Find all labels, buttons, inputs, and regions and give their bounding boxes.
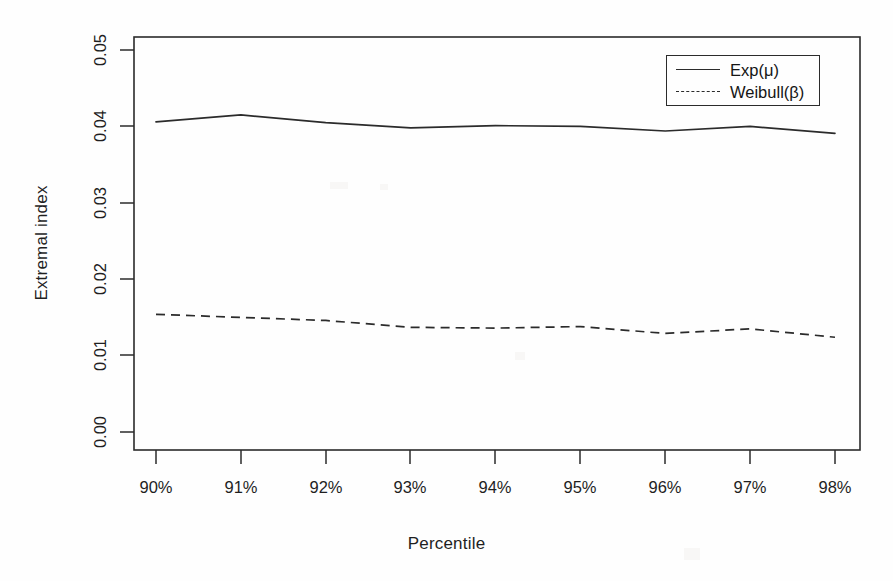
legend-key-solid-icon (676, 64, 722, 76)
y-axis-ticks (120, 50, 134, 432)
series-line-exp (156, 115, 835, 133)
series-line-weibull (156, 314, 835, 337)
legend-key-dashed-icon (676, 86, 722, 98)
x-axis-ticks (156, 450, 835, 464)
legend-entry-weibull: Weibull(β) (667, 81, 819, 103)
chart-figure: Extremal index Percentile 0.00 0.01 0.02… (0, 0, 893, 581)
legend-entry-exp: Exp(μ) (667, 59, 819, 81)
legend-label-exp: Exp(μ) (730, 61, 779, 80)
legend-label-weibull: Weibull(β) (730, 83, 804, 102)
legend: Exp(μ) Weibull(β) (666, 55, 820, 106)
